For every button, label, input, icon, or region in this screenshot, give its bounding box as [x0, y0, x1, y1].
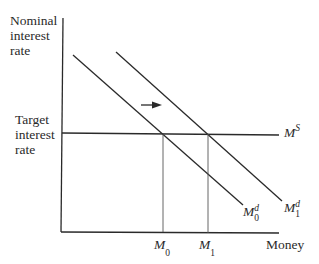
- m1d-sub: 1: [295, 207, 300, 221]
- m0-base: M: [154, 237, 165, 252]
- m0-sub: 0: [165, 248, 170, 258]
- y-axis-label-line-2: interest: [10, 28, 57, 43]
- m0d-base: M: [243, 204, 254, 219]
- y-axis-label-line-1: Nominal: [10, 13, 57, 28]
- money-demand-0-label: Md0: [243, 205, 261, 219]
- money-supply-label: MS: [284, 126, 300, 140]
- y-axis-label: Nominal interest rate: [10, 13, 57, 58]
- y-axis-label-line-3: rate: [10, 43, 57, 58]
- x-axis-label: Money: [266, 237, 304, 253]
- ms-sup: S: [295, 123, 300, 133]
- m1d-scripts: d1: [295, 201, 302, 215]
- money-demand-1-label: Md1: [284, 201, 302, 215]
- x-axis: [61, 232, 279, 233]
- money-supply-line: [62, 133, 279, 135]
- money-demand-curve-0: [73, 55, 243, 205]
- target-label-line-2: interest: [15, 127, 55, 142]
- m0d-sub: 0: [254, 211, 259, 225]
- right-arrow-icon: [141, 102, 162, 109]
- target-label-line-1: Target: [15, 112, 55, 127]
- m1-tick-label: M1: [199, 238, 215, 252]
- m1-base: M: [199, 237, 210, 252]
- ms-base: M: [284, 125, 295, 140]
- target-label-line-3: rate: [15, 142, 55, 157]
- m0-tick-label: M0: [154, 238, 170, 252]
- target-rate-label: Target interest rate: [15, 112, 55, 157]
- money-demand-curve-1: [116, 52, 282, 201]
- m1-sub: 1: [210, 248, 215, 258]
- m1d-base: M: [284, 200, 295, 215]
- m0d-scripts: d0: [254, 205, 261, 219]
- y-axis: [61, 18, 63, 232]
